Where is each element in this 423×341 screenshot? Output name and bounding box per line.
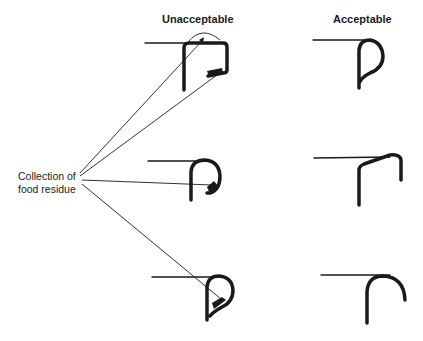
- hem-profile-diagram: Unacceptable Acceptable Collection of fo…: [0, 0, 423, 341]
- profile-acceptable-row3: [321, 275, 405, 323]
- profile-acceptable-row2: [314, 155, 401, 205]
- diagram-drawing: [0, 0, 423, 341]
- profile-unacceptable-row1: [145, 33, 227, 90]
- profile-unacceptable-row2: [148, 160, 220, 200]
- profile-acceptable-row1: [313, 40, 383, 88]
- profile-unacceptable-row3: [152, 276, 233, 320]
- leader-line-row1-corner: [80, 43, 200, 173]
- leader-line-row3: [82, 184, 221, 299]
- callout-leader-lines: [80, 43, 221, 299]
